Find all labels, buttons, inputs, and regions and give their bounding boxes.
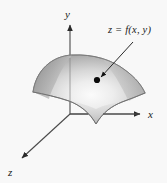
function-label: z = f(x, y) <box>107 24 151 36</box>
y-axis-label: y <box>64 8 70 20</box>
surface-point-marker <box>94 77 100 83</box>
surface-figure: z = f(x, y) y x z <box>0 0 167 183</box>
z-axis-label: z <box>7 166 13 178</box>
figure-canvas: z = f(x, y) y x z <box>0 0 167 183</box>
x-axis-label: x <box>147 108 153 120</box>
